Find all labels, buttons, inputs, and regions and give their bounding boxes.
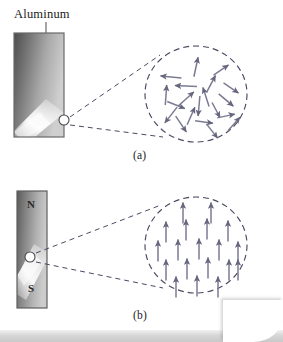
domain-arrows-random bbox=[161, 57, 240, 138]
magnification-leader-lines bbox=[70, 55, 163, 137]
panel-aluminum: Aluminum (a) bbox=[0, 0, 283, 171]
pole-label-north: N bbox=[27, 199, 35, 210]
caption-b: (b) bbox=[133, 310, 147, 322]
pole-label-south: S bbox=[28, 283, 34, 294]
material-label-aluminum: Aluminum bbox=[14, 8, 70, 21]
domain-arrow bbox=[214, 65, 229, 75]
domain-arrow bbox=[206, 124, 217, 138]
domain-marker-circle bbox=[25, 252, 35, 262]
domain-arrow bbox=[212, 102, 220, 117]
domain-arrow bbox=[176, 116, 187, 132]
caption-a: (a) bbox=[133, 150, 146, 162]
figure-page: Aluminum (a) bbox=[0, 0, 283, 342]
domain-arrow bbox=[224, 83, 239, 93]
domain-marker-circle bbox=[59, 115, 69, 125]
domain-arrow bbox=[198, 96, 200, 116]
panel-a-graphics bbox=[0, 0, 283, 171]
magnification-leader-lines bbox=[36, 205, 163, 288]
domain-arrow bbox=[165, 107, 177, 123]
domain-arrow bbox=[161, 76, 182, 78]
domain-arrow bbox=[228, 117, 240, 130]
aluminum-bar bbox=[8, 33, 64, 141]
domain-arrow bbox=[194, 57, 198, 77]
domain-arrow bbox=[195, 121, 213, 124]
domain-arrow bbox=[165, 85, 166, 105]
magnification-circle bbox=[145, 197, 247, 293]
domain-arrow bbox=[207, 76, 216, 93]
domain-arrow bbox=[219, 94, 234, 106]
domain-arrow bbox=[175, 86, 197, 87]
domain-arrow bbox=[178, 92, 194, 106]
domain-arrow bbox=[187, 107, 195, 124]
